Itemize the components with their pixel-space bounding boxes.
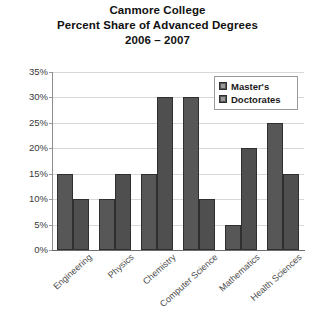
legend-item-masters[interactable]: Master's (219, 80, 293, 92)
y-tick-label-25: 25% (4, 118, 48, 128)
bar[interactable] (99, 199, 115, 250)
bar[interactable] (241, 148, 257, 250)
x-tick-label: Physics (106, 252, 136, 280)
bar[interactable] (225, 225, 241, 250)
bar[interactable] (199, 199, 215, 250)
legend-item-doctorates[interactable]: Doctorates (219, 93, 293, 105)
bar[interactable] (267, 123, 283, 250)
y-tick-label-20: 20% (4, 143, 48, 153)
chart-title: Canmore College Percent Share of Advance… (0, 3, 315, 48)
legend-label-doctorates: Doctorates (231, 94, 281, 105)
y-tick-label-5: 5% (4, 220, 48, 230)
x-tick-label: Chemistry (141, 252, 178, 287)
bar[interactable] (183, 97, 199, 250)
y-tick-label-30: 30% (4, 92, 48, 102)
chart-title-line-1: Canmore College (0, 3, 315, 18)
chart-container: Canmore College Percent Share of Advance… (0, 0, 315, 320)
bar-group (183, 72, 215, 250)
x-tick-label: Mathematics (217, 252, 262, 294)
bar-group (99, 72, 131, 250)
y-tick-label-35: 35% (4, 67, 48, 77)
bar[interactable] (115, 174, 131, 250)
bar[interactable] (283, 174, 299, 250)
bar-group (141, 72, 173, 250)
bar[interactable] (73, 199, 89, 250)
bar-group (57, 72, 89, 250)
chart-title-line-3: 2006 – 2007 (0, 33, 315, 48)
y-tick-label-10: 10% (4, 194, 48, 204)
y-tick-label-15: 15% (4, 169, 48, 179)
chart-legend: Master's Doctorates (214, 76, 298, 110)
chart-title-line-2: Percent Share of Advanced Degrees (0, 18, 315, 33)
bar[interactable] (141, 174, 157, 250)
x-tick-label: Engineering (51, 252, 93, 292)
y-axis-labels: 0%5%10%15%20%25%30%35% (0, 72, 48, 251)
legend-swatch-icon-doctorates (219, 95, 227, 103)
x-axis-labels: EngineeringPhysicsChemistryComputer Scie… (0, 250, 315, 320)
legend-label-masters: Master's (231, 81, 269, 92)
bar[interactable] (57, 174, 73, 250)
bar[interactable] (157, 97, 173, 250)
legend-swatch-icon-masters (219, 82, 227, 90)
